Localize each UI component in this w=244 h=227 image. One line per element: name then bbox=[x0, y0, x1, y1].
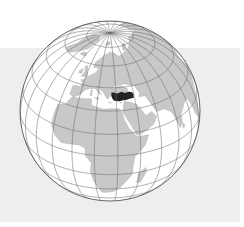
globe-map bbox=[0, 0, 244, 227]
